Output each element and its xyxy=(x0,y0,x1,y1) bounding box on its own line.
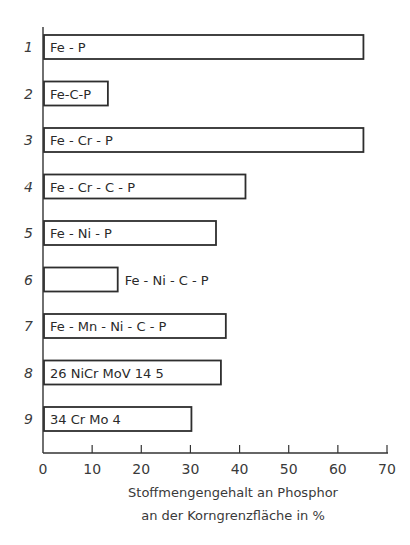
bar-label: Fe-C-P xyxy=(50,87,91,102)
bar-label: Fe - Ni - C - P xyxy=(125,273,209,288)
x-tick-label: 0 xyxy=(39,461,48,477)
x-tick-label: 60 xyxy=(329,461,347,477)
row-number: 1 xyxy=(24,39,33,55)
x-tick-label: 50 xyxy=(280,461,298,477)
x-axis-label-line2: an der Korngrenzfläche in % xyxy=(141,508,325,523)
x-tick-label: 30 xyxy=(182,461,200,477)
bar-label: 26 NiCr MoV 14 5 xyxy=(50,366,164,381)
x-tick-label: 10 xyxy=(83,461,101,477)
row-number: 9 xyxy=(24,411,33,427)
x-axis-ticks: 010203040506070 xyxy=(39,445,396,477)
row-number: 5 xyxy=(24,225,33,241)
row-number: 3 xyxy=(24,132,33,148)
bar-row: 2Fe-C-P xyxy=(24,82,108,106)
x-tick-label: 40 xyxy=(231,461,249,477)
row-number: 4 xyxy=(24,179,33,195)
bar-row: 1Fe - P xyxy=(24,35,363,59)
bar-chart: 1Fe - P2Fe-C-P3Fe - Cr - P4Fe - Cr - C -… xyxy=(0,0,410,545)
bar-row: 6Fe - Ni - C - P xyxy=(24,268,209,292)
bar-row: 826 NiCr MoV 14 5 xyxy=(24,361,221,385)
bar xyxy=(44,268,118,292)
bar-label: Fe - Cr - C - P xyxy=(50,180,135,195)
x-tick-label: 20 xyxy=(132,461,150,477)
row-number: 6 xyxy=(24,272,33,288)
row-number: 8 xyxy=(24,365,33,381)
row-number: 7 xyxy=(24,318,33,334)
bar-label: Fe - Ni - P xyxy=(50,226,112,241)
bar-row: 5Fe - Ni - P xyxy=(24,221,216,245)
bar-row: 934 Cr Mo 4 xyxy=(24,407,191,431)
bar-row: 4Fe - Cr - C - P xyxy=(24,175,245,199)
bar-label: Fe - Cr - P xyxy=(50,133,113,148)
bar-label: Fe - P xyxy=(50,40,86,55)
bar-row: 7Fe - Mn - Ni - C - P xyxy=(24,314,226,338)
bar-row: 3Fe - Cr - P xyxy=(24,128,363,152)
bar-label: Fe - Mn - Ni - C - P xyxy=(50,319,166,334)
row-number: 2 xyxy=(24,86,33,102)
x-axis-label-line1: Stoffmengengehalt an Phosphor xyxy=(128,485,339,500)
bar-label: 34 Cr Mo 4 xyxy=(50,412,121,427)
bars-group: 1Fe - P2Fe-C-P3Fe - Cr - P4Fe - Cr - C -… xyxy=(24,35,363,431)
bar xyxy=(44,35,363,59)
x-tick-label: 70 xyxy=(378,461,396,477)
